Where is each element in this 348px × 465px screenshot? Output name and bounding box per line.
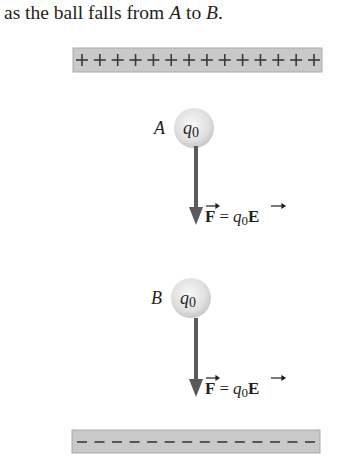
vector-arrows-a xyxy=(206,204,285,208)
ball-a: A q0 xyxy=(153,108,214,148)
force-equation-b: F=q0E xyxy=(205,379,259,400)
ball-b: B q0 xyxy=(151,278,211,318)
force-equation-a: F=q0E xyxy=(205,207,259,228)
force-arrow-b xyxy=(189,318,203,397)
positive-plate xyxy=(73,48,322,72)
label-b: B xyxy=(151,288,162,308)
electric-field-diagram: A q0 F=q0E B q0 F=q0E xyxy=(0,0,348,465)
vector-arrows-b xyxy=(206,376,285,380)
force-arrow-a xyxy=(189,146,203,225)
negative-plate xyxy=(72,430,320,453)
label-a: A xyxy=(153,118,166,138)
